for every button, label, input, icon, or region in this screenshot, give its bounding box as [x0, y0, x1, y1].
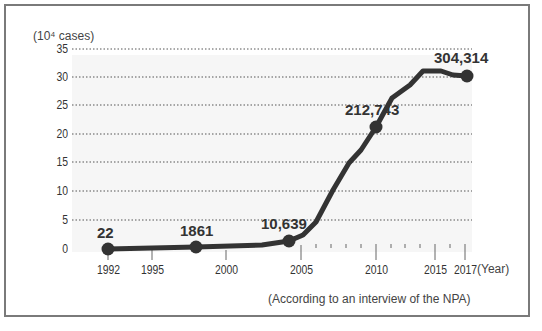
x-tick-2010: 2010 — [365, 262, 388, 277]
x-tick-1995: 1995 — [141, 262, 164, 277]
data-label-2004: 10,639 — [261, 215, 307, 232]
x-tick-2000: 2000 — [215, 262, 238, 277]
x-tick-1992: 1992 — [97, 262, 120, 277]
data-label-1992: 22 — [97, 224, 114, 241]
x-tick-2005: 2005 — [290, 262, 313, 277]
x-tick-2015: 2015 — [424, 262, 447, 277]
x-axis-unit: (Year) — [477, 262, 509, 276]
data-label-1998: 1861 — [180, 222, 213, 239]
source-note: (According to an interview of the NPA) — [268, 292, 471, 306]
data-label-2010: 212,743 — [345, 101, 399, 118]
x-tick-2017: 2017 — [454, 262, 477, 277]
data-label-2017: 304,314 — [434, 49, 488, 66]
